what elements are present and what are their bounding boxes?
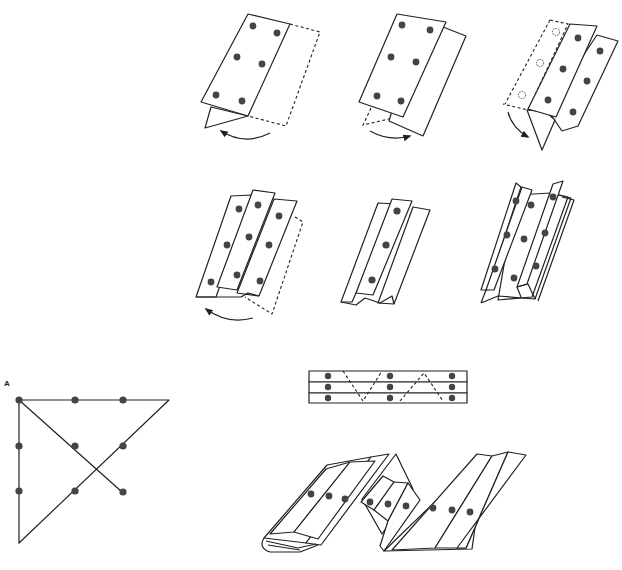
fold-arrow-left-icon [206,309,253,320]
nine-dot-puzzle: A [4,379,169,543]
step-5 [341,199,430,305]
solution-lines [19,400,169,543]
folding-diagram: A [0,0,622,570]
accordion-fold [262,452,526,552]
fold-arrow-left-icon [221,131,270,139]
puzzle-label: A [4,379,10,388]
step-1 [201,14,320,139]
fold-arrow-right-icon [370,131,410,138]
fold-arrow-down-icon [508,112,528,137]
step-3 [503,20,618,150]
step-2 [359,14,466,138]
zigzag-strip [309,371,467,403]
step-6 [481,181,574,303]
step-4 [196,190,303,320]
front-panel [201,14,290,116]
